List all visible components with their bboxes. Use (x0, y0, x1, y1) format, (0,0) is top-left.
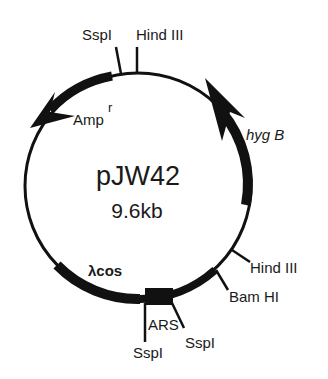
right-bamhi-label: Bam HI (229, 288, 279, 305)
top-sspi-tick (116, 47, 121, 74)
plasmid-name: pJW42 (96, 161, 180, 191)
plasmid-map: SspI Hind III Amp r hyg B pJW42 9.6kb λc… (0, 0, 328, 379)
hyg-label: hyg B (246, 126, 284, 143)
amp-superscript: r (108, 100, 113, 115)
ars-label: ARS (148, 316, 179, 333)
amp-label: Amp (73, 111, 104, 128)
plasmid-size: 9.6kb (111, 199, 162, 222)
right-bamhi-tick (216, 270, 228, 290)
ars-block (145, 288, 173, 305)
right-hindiii-tick (232, 250, 250, 262)
bottom-sspi-left-label: SspI (133, 344, 163, 361)
lambda-cos-label: λcos (88, 262, 122, 279)
right-hindiii-label: Hind III (250, 259, 298, 276)
top-sspi-label: SspI (82, 26, 112, 43)
amp-gene-arrow (50, 76, 112, 110)
top-hindiii-label: Hind III (136, 26, 184, 43)
bottom-sspi-right-label: SspI (185, 334, 215, 351)
